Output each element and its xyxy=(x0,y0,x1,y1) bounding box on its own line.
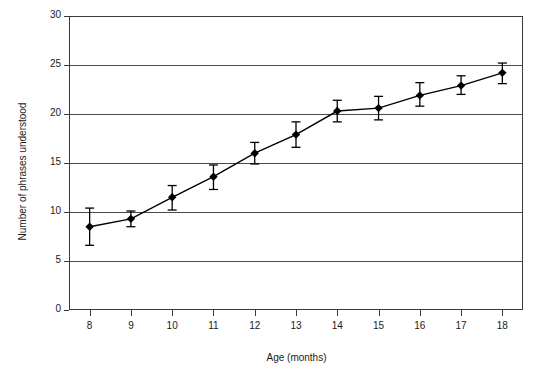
x-tick-label: 12 xyxy=(240,320,270,331)
x-tick-label: 13 xyxy=(281,320,311,331)
x-tick-label: 14 xyxy=(322,320,352,331)
x-tick-label: 8 xyxy=(75,320,105,331)
x-tick-mark xyxy=(172,310,173,316)
x-tick-mark xyxy=(255,310,256,316)
y-axis-title: Number of phrases understood xyxy=(17,57,28,287)
x-tick-mark xyxy=(131,310,132,316)
x-tick-label: 15 xyxy=(364,320,394,331)
x-tick-label: 17 xyxy=(446,320,476,331)
x-tick-label: 9 xyxy=(116,320,146,331)
y-tick-label: 25 xyxy=(27,58,61,69)
x-tick-mark xyxy=(213,310,214,316)
x-tick-mark xyxy=(296,310,297,316)
x-tick-label: 10 xyxy=(157,320,187,331)
y-tick-mark xyxy=(64,310,69,311)
x-tick-label: 11 xyxy=(198,320,228,331)
plot-frame xyxy=(69,16,523,310)
x-tick-mark xyxy=(461,310,462,316)
y-tick-label: 20 xyxy=(27,107,61,118)
x-tick-mark xyxy=(337,310,338,316)
chart-canvas: Number of phrases understood 05101520253… xyxy=(0,0,539,375)
y-tick-label: 0 xyxy=(27,303,61,314)
x-tick-mark xyxy=(502,310,503,316)
x-tick-label: 18 xyxy=(487,320,517,331)
y-tick-label: 5 xyxy=(27,254,61,265)
x-tick-mark xyxy=(90,310,91,316)
x-tick-mark xyxy=(420,310,421,316)
x-tick-mark xyxy=(379,310,380,316)
y-tick-label: 30 xyxy=(27,9,61,20)
x-axis-title: Age (months) xyxy=(69,352,524,363)
y-tick-label: 10 xyxy=(27,205,61,216)
x-tick-label: 16 xyxy=(405,320,435,331)
y-tick-label: 15 xyxy=(27,156,61,167)
